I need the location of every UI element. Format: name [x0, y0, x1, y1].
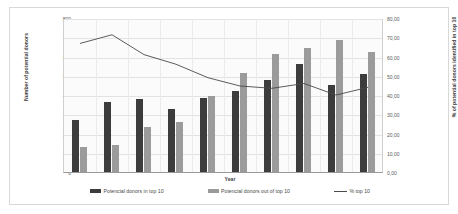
legend-item[interactable]: Potencial donors in top 10	[90, 188, 164, 194]
secondary-y-axis-tick: 70,00	[387, 35, 431, 41]
secondary-y-axis-tick: 80,00	[387, 16, 431, 22]
secondary-y-axis-tick: 20,00	[387, 132, 431, 138]
secondary-y-axis-tick: 10,00	[387, 151, 431, 157]
secondary-y-axis-tick: 0,00	[387, 170, 431, 176]
y-axis-title: Number of potential donors	[23, 7, 29, 127]
chart-plot-frame: Number of potential donors % of potentia…	[9, 7, 449, 205]
legend-bar-swatch-icon	[90, 189, 101, 192]
plot-area	[63, 19, 383, 173]
secondary-y-axis-tick: 40,00	[387, 93, 431, 99]
legend-item[interactable]: Potencial donors out of top 10	[208, 188, 290, 194]
chart-legend: Potencial donors in top 10Potencial dono…	[10, 188, 450, 194]
x-axis-title: Year	[10, 176, 450, 182]
line-series-layer	[64, 19, 384, 173]
secondary-y-axis-tick: 30,00	[387, 112, 431, 118]
legend-item-label: % top 10	[349, 188, 369, 194]
legend-line-swatch-icon	[334, 191, 347, 192]
secondary-y-axis-tick: 50,00	[387, 74, 431, 80]
secondary-y-axis-title: % of potential donors identified in top …	[451, 2, 457, 132]
percent-top10-line	[80, 35, 368, 95]
legend-bar-swatch-icon	[208, 189, 219, 192]
legend-item-label: Potencial donors in top 10	[104, 188, 164, 194]
chart-container: Number of potential donors % of potentia…	[0, 0, 458, 214]
legend-item-label: Potencial donors out of top 10	[221, 188, 290, 194]
legend-item[interactable]: % top 10	[334, 188, 370, 194]
secondary-y-axis-tick: 60,00	[387, 55, 431, 61]
